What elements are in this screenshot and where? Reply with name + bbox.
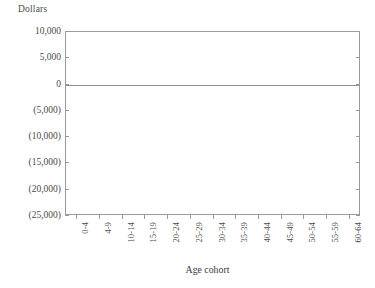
x-tick-mark — [235, 215, 236, 219]
y-tick-mark — [356, 84, 360, 85]
y-axis-title: Dollars — [18, 4, 47, 14]
y-tick-label: (5,000) — [33, 105, 61, 115]
x-tick-mark — [76, 215, 77, 219]
y-tick-label: (10,000) — [29, 131, 61, 141]
x-tick-mark — [144, 215, 145, 219]
x-tick-mark — [99, 215, 100, 219]
y-tick-mark — [65, 136, 69, 137]
bars-container — [66, 32, 359, 214]
y-tick-mark — [65, 189, 69, 190]
y-tick-label: (25,000) — [29, 210, 61, 220]
x-tick-label-30-34: 30-34 — [217, 222, 227, 243]
x-tick-label-0-4: 0-4 — [80, 222, 90, 234]
x-tick-label-25-29: 25-29 — [194, 222, 204, 243]
x-tick-mark — [190, 215, 191, 219]
x-tick-mark — [258, 215, 259, 219]
y-tick-mark — [356, 162, 360, 163]
x-tick-mark — [167, 215, 168, 219]
y-tick-mark — [356, 215, 360, 216]
y-axis-tick-labels: 10,0005,0000(5,000)(10,000)(15,000)(20,0… — [0, 31, 61, 215]
y-tick-mark — [356, 110, 360, 111]
x-tick-mark — [303, 215, 304, 219]
bar-chart-figure: Dollars 10,0005,0000(5,000)(10,000)(15,0… — [0, 0, 375, 288]
x-tick-label-55-59: 55-59 — [330, 222, 340, 243]
y-tick-label: (20,000) — [29, 184, 61, 194]
y-tick-mark — [356, 136, 360, 137]
x-tick-label-35-39: 35-39 — [239, 222, 249, 243]
x-tick-label-40-44: 40-44 — [262, 222, 272, 243]
y-tick-mark — [356, 57, 360, 58]
x-tick-mark — [213, 215, 214, 219]
x-tick-label-60-64: 60-64 — [353, 222, 363, 243]
x-tick-label-20-24: 20-24 — [171, 222, 181, 243]
x-tick-mark — [281, 215, 282, 219]
y-tick-mark — [65, 84, 69, 85]
y-tick-mark — [65, 215, 69, 216]
x-tick-label-15-19: 15-19 — [148, 222, 158, 243]
x-tick-label-50-54: 50-54 — [307, 222, 317, 243]
y-tick-label: 0 — [56, 79, 61, 89]
x-tick-label-10-14: 10-14 — [126, 222, 136, 243]
y-tick-label: (15,000) — [29, 157, 61, 167]
y-tick-label: 10,000 — [35, 26, 61, 36]
y-tick-mark — [65, 162, 69, 163]
x-axis-title: Age cohort — [0, 264, 375, 275]
y-tick-mark — [65, 110, 69, 111]
x-tick-mark — [349, 215, 350, 219]
x-tick-mark — [122, 215, 123, 219]
y-tick-label: 5,000 — [40, 52, 61, 62]
x-tick-mark — [326, 215, 327, 219]
y-tick-mark — [65, 57, 69, 58]
y-tick-mark — [356, 189, 360, 190]
plot-area — [65, 31, 360, 215]
x-tick-label-4-9: 4-9 — [103, 222, 113, 234]
x-tick-label-45-49: 45-49 — [285, 222, 295, 243]
